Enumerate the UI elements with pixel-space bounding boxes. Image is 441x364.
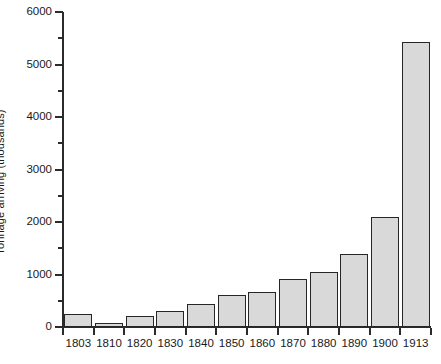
y-axis-title: Tonnage arriving (thousands) — [0, 0, 36, 364]
bar-slot — [186, 12, 217, 327]
bar-1850[interactable] — [218, 295, 246, 327]
x-axis-tick — [430, 328, 432, 335]
y-axis-tick-major — [55, 64, 63, 66]
x-axis-tick — [185, 328, 187, 335]
bar-1880[interactable] — [310, 272, 338, 327]
bar-slot — [339, 12, 370, 327]
bar-slot — [400, 12, 431, 327]
bar-1820[interactable] — [126, 316, 154, 327]
y-axis-tick-label: 3000 — [6, 164, 52, 176]
bar-1860[interactable] — [248, 292, 276, 327]
y-axis-tick-major — [55, 221, 63, 223]
bar-slot — [216, 12, 247, 327]
bar-slot — [247, 12, 278, 327]
bar-slot — [308, 12, 339, 327]
x-axis-tick — [123, 328, 125, 335]
x-axis-tick — [93, 328, 95, 335]
x-axis-tick — [154, 328, 156, 335]
bar-chart-figure: Tonnage arriving (thousands) 01000200030… — [0, 0, 441, 364]
bar-1840[interactable] — [187, 304, 215, 327]
plot-area — [63, 12, 431, 327]
bar-slot — [278, 12, 309, 327]
y-axis-tick-major — [55, 11, 63, 13]
x-axis-tick — [246, 328, 248, 335]
bar-slot — [124, 12, 155, 327]
bar-1900[interactable] — [371, 217, 399, 327]
bar-1913[interactable] — [402, 42, 430, 327]
bar-1830[interactable] — [156, 311, 184, 327]
x-axis-tick — [62, 328, 64, 335]
y-axis-tick-label: 5000 — [6, 59, 52, 71]
x-axis-tick — [399, 328, 401, 335]
bar-slot — [63, 12, 94, 327]
y-axis-tick-label: 6000 — [6, 6, 52, 18]
y-axis-tick-label: 4000 — [6, 111, 52, 123]
y-axis-tick-major — [55, 274, 63, 276]
x-axis-tick — [215, 328, 217, 335]
bar-slot — [155, 12, 186, 327]
y-axis-tick-label: 0 — [6, 321, 52, 333]
bar-1803[interactable] — [64, 314, 92, 327]
bar-1890[interactable] — [340, 254, 368, 327]
bar-slot — [370, 12, 401, 327]
y-axis-tick-label: 1000 — [6, 269, 52, 281]
bar-series — [63, 12, 431, 327]
y-axis-tick-major — [55, 116, 63, 118]
x-axis-tick — [338, 328, 340, 335]
x-axis-tick — [369, 328, 371, 335]
bar-1870[interactable] — [279, 279, 307, 327]
x-axis-tick — [277, 328, 279, 335]
y-axis-tick-label: 2000 — [6, 216, 52, 228]
bar-slot — [94, 12, 125, 327]
bar-1810[interactable] — [95, 323, 123, 327]
x-axis-tick-label: 1913 — [396, 338, 436, 350]
y-axis-tick-major — [55, 169, 63, 171]
x-axis-tick — [307, 328, 309, 335]
